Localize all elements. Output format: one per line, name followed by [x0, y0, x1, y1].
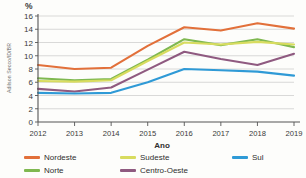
legend-item: Sudeste — [120, 153, 232, 162]
y-tick-label: 6 — [29, 78, 34, 87]
chart-legend: Ano NordesteSudesteSulNorteCentro-Oeste — [18, 141, 306, 178]
line-chart: 0246810121416201220132014201520162017201… — [18, 10, 304, 138]
y-tick-label: 10 — [24, 52, 33, 61]
x-tick-label: 2019 — [286, 129, 303, 138]
legend-label: Nordeste — [44, 153, 76, 162]
y-tick-label: 4 — [29, 92, 34, 101]
x-tick-label: 2018 — [249, 129, 266, 138]
x-tick-label: 2014 — [103, 129, 120, 138]
legend-item: Sul — [232, 153, 306, 162]
legend-swatch — [120, 169, 136, 172]
plot-area: 0246810121416201220132014201520162017201… — [18, 10, 304, 138]
y-tick-label: 16 — [24, 12, 33, 21]
y-tick-label: 2 — [29, 105, 34, 114]
y-tick-label: 14 — [24, 25, 33, 34]
x-tick-label: 2012 — [30, 129, 47, 138]
legend-label: Centro-Oeste — [140, 166, 188, 175]
legend-item: Centro-Oeste — [120, 166, 232, 175]
y-tick-label: 0 — [29, 118, 34, 127]
legend-label: Sul — [252, 153, 264, 162]
y-tick-label: 12 — [24, 39, 33, 48]
legend-swatch — [24, 169, 40, 172]
legend-item: Nordeste — [24, 153, 120, 162]
legend-label: Norte — [44, 166, 64, 175]
series-line — [38, 23, 294, 69]
legend-label: Sudeste — [140, 153, 169, 162]
legend-item: Norte — [24, 166, 120, 175]
x-axis-title: Ano — [18, 141, 306, 150]
legend-swatch — [24, 156, 40, 159]
y-tick-label: 8 — [29, 65, 34, 74]
image-credit: Adilson Secco/ID/BR — [0, 0, 18, 136]
legend-swatch — [232, 156, 248, 159]
legend-swatch — [120, 156, 136, 159]
x-tick-label: 2013 — [66, 129, 83, 138]
chart-screenshot: Adilson Secco/ID/BR % 024681012141620122… — [0, 0, 306, 178]
image-credit-text: Adilson Secco/ID/BR — [6, 43, 12, 93]
legend-items: NordesteSudesteSulNorteCentro-Oeste — [24, 151, 306, 177]
x-tick-label: 2015 — [139, 129, 156, 138]
x-tick-label: 2017 — [212, 129, 229, 138]
x-tick-label: 2016 — [176, 129, 193, 138]
